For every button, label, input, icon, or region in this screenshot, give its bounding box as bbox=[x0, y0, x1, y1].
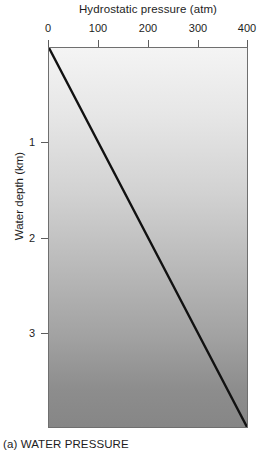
y-tick-3 bbox=[41, 333, 48, 334]
y-tick-2 bbox=[41, 238, 48, 239]
x-tick-300 bbox=[198, 40, 199, 47]
x-tick-label-0: 0 bbox=[45, 22, 51, 34]
y-tick-label-2: 2 bbox=[29, 232, 35, 244]
y-axis-title: Water depth (km) bbox=[13, 136, 25, 256]
pressure-depth-line bbox=[49, 48, 247, 427]
x-tick-label-100: 100 bbox=[89, 22, 107, 34]
x-tick-400 bbox=[247, 40, 248, 47]
x-tick-200 bbox=[148, 40, 149, 47]
chart-title: Hydrostatic pressure (atm) bbox=[48, 3, 248, 15]
x-tick-100 bbox=[98, 40, 99, 47]
data-series-svg bbox=[49, 48, 247, 427]
y-tick-label-1: 1 bbox=[29, 136, 35, 148]
x-tick-label-400: 400 bbox=[238, 22, 256, 34]
x-tick-label-300: 300 bbox=[189, 22, 207, 34]
plot-area bbox=[48, 47, 248, 428]
y-tick-1 bbox=[41, 142, 48, 143]
x-tick-0 bbox=[48, 40, 49, 47]
figure-caption: (a) WATER PRESSURE bbox=[3, 438, 129, 450]
y-tick-label-3: 3 bbox=[29, 327, 35, 339]
x-tick-label-200: 200 bbox=[139, 22, 157, 34]
figure-water-pressure: Hydrostatic pressure (atm) 0 100 200 300… bbox=[0, 0, 267, 460]
